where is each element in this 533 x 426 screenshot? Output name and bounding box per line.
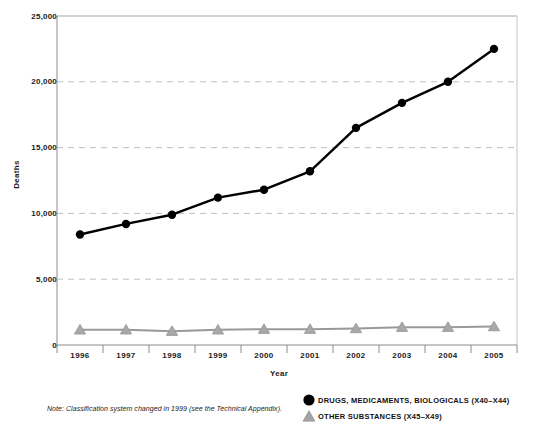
y-axis-tick-labels: 25,000 20,000 15,000 10,000 5,000 0 xyxy=(0,0,57,426)
y-tick-label: 20,000 xyxy=(13,77,57,86)
chart-legend: DRUGS, MEDICAMENTS, BIOLOGICALS (X40–X44… xyxy=(300,392,533,424)
chart-footnote: Note: Classification system changed in 1… xyxy=(47,405,282,412)
y-tick-label: 25,000 xyxy=(13,12,57,21)
legend-item-other-substances: OTHER SUBSTANCES (X45–X49) xyxy=(300,408,533,424)
data-point-circle xyxy=(168,211,176,219)
triangle-marker-icon xyxy=(300,408,318,424)
legend-label-drugs: DRUGS, MEDICAMENTS, BIOLOGICALS (X40–X44… xyxy=(318,396,510,405)
legend-label-other-substances: OTHER SUBSTANCES (X45–X49) xyxy=(318,412,442,421)
data-point-circle xyxy=(490,45,498,53)
series-drugs xyxy=(76,45,498,239)
data-point-circle xyxy=(122,220,130,228)
x-tick-label: 2003 xyxy=(379,351,425,367)
y-tick-label: 0 xyxy=(13,341,57,350)
series-other-substances xyxy=(74,321,499,335)
x-tick-label: 2002 xyxy=(333,351,379,367)
data-series-layer xyxy=(74,45,499,336)
data-point-circle xyxy=(352,124,360,132)
y-tick-label: 10,000 xyxy=(13,209,57,218)
x-axis-title: Year xyxy=(249,369,309,378)
data-point-circle xyxy=(260,186,268,194)
line-chart-figure: 25,000 20,000 15,000 10,000 5,000 0 Deat… xyxy=(0,0,533,426)
legend-item-drugs: DRUGS, MEDICAMENTS, BIOLOGICALS (X40–X44… xyxy=(300,392,533,408)
data-point-circle xyxy=(214,193,222,201)
x-tick-label: 2000 xyxy=(241,351,287,367)
x-tick-label: 1996 xyxy=(57,351,103,367)
data-point-circle xyxy=(444,78,452,86)
x-tick-label: 1998 xyxy=(149,351,195,367)
circle-marker-icon xyxy=(300,392,318,408)
x-tick-label: 1997 xyxy=(103,351,149,367)
y-tick-label: 5,000 xyxy=(13,275,57,284)
data-point-circle xyxy=(398,99,406,107)
x-tick-label: 1999 xyxy=(195,351,241,367)
x-tick-label: 2004 xyxy=(425,351,471,367)
x-axis-tick-labels: 1996 1997 1998 1999 2000 2001 2002 2003 … xyxy=(57,351,517,367)
data-point-circle xyxy=(76,230,84,238)
x-tick-label: 2001 xyxy=(287,351,333,367)
series-line xyxy=(80,49,494,235)
series-line xyxy=(80,327,494,332)
x-tick-label: 2005 xyxy=(471,351,517,367)
data-point-circle xyxy=(306,167,314,175)
y-axis-title: Deaths xyxy=(12,145,21,205)
